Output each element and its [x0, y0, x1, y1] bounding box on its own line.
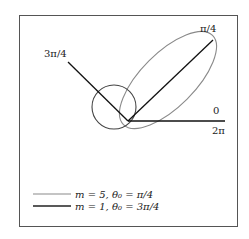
label-2pi: 2π — [212, 125, 225, 136]
label-pi4: π/4 — [200, 23, 216, 34]
label-0: 0 — [213, 105, 219, 116]
ray-pi4 — [128, 40, 213, 121]
legend-label-m1: m = 1, θ₀ = 3π/4 — [75, 201, 159, 212]
ray-3pi4 — [68, 62, 128, 121]
legend-label-m5: m = 5, θ₀ = π/4 — [75, 189, 153, 200]
polar-diagram: 3π/4 π/4 0 2π m = 5, θ₀ = π/4 m = 1, θ₀ … — [0, 0, 249, 239]
label-3pi4: 3π/4 — [44, 48, 67, 59]
